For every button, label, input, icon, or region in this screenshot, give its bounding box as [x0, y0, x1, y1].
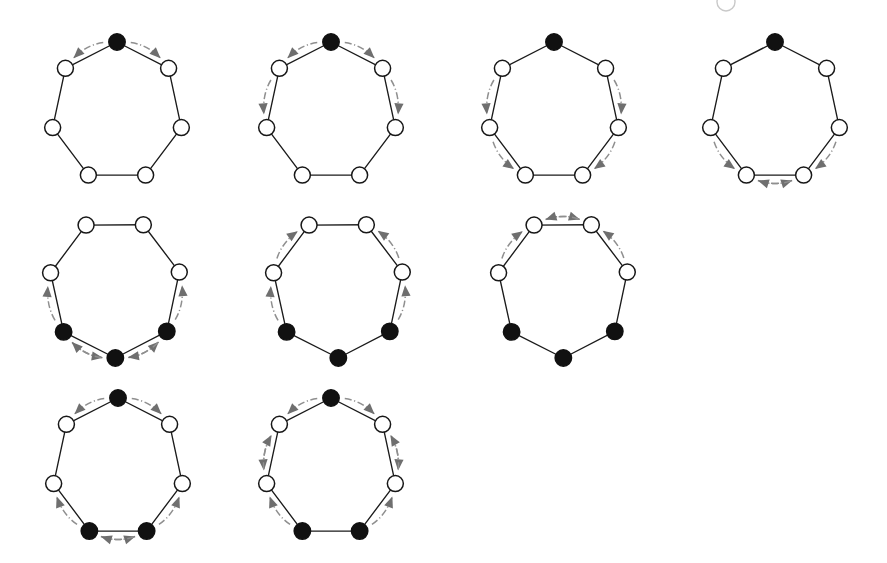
node-layer — [259, 390, 404, 539]
graph-node-open[interactable] — [161, 60, 177, 76]
graph-edge — [53, 68, 66, 127]
graph-panel-panel-5 — [15, 184, 215, 392]
graph-edge — [170, 424, 183, 483]
graph-edge — [499, 225, 534, 273]
graph-node-open[interactable] — [57, 60, 73, 76]
arc-layer — [265, 231, 410, 321]
graph-node-open[interactable] — [819, 60, 835, 76]
graph-node-open[interactable] — [352, 167, 368, 183]
graph-node-open[interactable] — [394, 264, 410, 280]
node-layer — [43, 217, 188, 366]
arc-layer — [481, 80, 626, 169]
graph-node-open[interactable] — [173, 120, 189, 136]
arrow-head-icon — [269, 497, 278, 509]
node-layer — [266, 217, 411, 366]
graph-node-open[interactable] — [491, 265, 507, 281]
graph-node-open[interactable] — [271, 416, 287, 432]
graph-node-open[interactable] — [610, 120, 626, 136]
node-layer — [46, 390, 191, 539]
graph-node-open[interactable] — [135, 217, 151, 233]
graph-node-filled[interactable] — [382, 323, 398, 339]
graph-node-filled[interactable] — [109, 34, 125, 50]
graph-edge — [390, 272, 402, 331]
graph-node-open[interactable] — [259, 120, 275, 136]
graph-node-filled[interactable] — [278, 324, 294, 340]
graph-node-open[interactable] — [517, 167, 533, 183]
graph-node-open[interactable] — [575, 167, 591, 183]
graph-edge — [51, 273, 64, 332]
arrow-head-icon — [594, 159, 606, 169]
graph-edge — [169, 68, 182, 127]
arrow-head-icon — [617, 103, 626, 114]
graph-node-open[interactable] — [80, 167, 96, 183]
graph-node-open[interactable] — [738, 167, 754, 183]
graph-node-open[interactable] — [45, 120, 61, 136]
graph-edge — [51, 225, 86, 273]
arrow-head-icon — [128, 351, 140, 360]
arrow-head-icon — [758, 179, 770, 188]
arrow-head-icon — [258, 103, 267, 114]
graph-node-open[interactable] — [619, 264, 635, 280]
graph-node-open[interactable] — [598, 60, 614, 76]
graph-node-filled[interactable] — [323, 34, 339, 50]
arc-layer — [258, 42, 403, 114]
graph-node-open[interactable] — [271, 60, 287, 76]
graph-node-filled[interactable] — [323, 390, 339, 406]
graph-node-open[interactable] — [494, 60, 510, 76]
graph-node-open[interactable] — [259, 476, 275, 492]
graph-node-open[interactable] — [301, 217, 317, 233]
graph-edge — [366, 225, 402, 272]
node-layer — [482, 34, 627, 183]
graph-edge — [591, 225, 627, 272]
graph-node-open[interactable] — [171, 264, 187, 280]
graph-node-open[interactable] — [43, 265, 59, 281]
graph-edge — [499, 273, 512, 332]
graph-edge — [804, 128, 840, 175]
graph-node-filled[interactable] — [351, 523, 367, 539]
graph-node-open[interactable] — [482, 120, 498, 136]
graph-node-open[interactable] — [387, 476, 403, 492]
graph-node-filled[interactable] — [503, 324, 519, 340]
graph-node-open[interactable] — [358, 217, 374, 233]
graph-node-filled[interactable] — [546, 34, 562, 50]
graph-node-filled[interactable] — [159, 323, 175, 339]
artifact-cut-off-node-top — [714, 0, 738, 14]
graph-node-open[interactable] — [387, 120, 403, 136]
arrow-head-icon — [73, 47, 84, 58]
graph-node-open[interactable] — [174, 476, 190, 492]
graph-node-filled[interactable] — [81, 523, 97, 539]
graph-node-filled[interactable] — [110, 390, 126, 406]
graph-node-filled[interactable] — [294, 523, 310, 539]
arrow-head-icon — [603, 231, 615, 241]
graph-node-open[interactable] — [266, 265, 282, 281]
arrow-head-icon — [265, 286, 274, 297]
graph-node-open[interactable] — [715, 60, 731, 76]
graph-node-open[interactable] — [375, 60, 391, 76]
arrow-head-icon — [723, 159, 735, 169]
arc-layer — [502, 212, 624, 259]
graph-node-open[interactable] — [162, 416, 178, 432]
graph-node-open[interactable] — [703, 120, 719, 136]
graph-node-filled[interactable] — [767, 34, 783, 50]
graph-node-open[interactable] — [78, 217, 94, 233]
arrow-head-icon — [287, 403, 298, 414]
graph-edge — [146, 128, 182, 175]
arrow-head-icon — [150, 403, 161, 414]
graph-node-open[interactable] — [831, 120, 847, 136]
graph-node-filled[interactable] — [55, 324, 71, 340]
graph-node-open[interactable] — [796, 167, 812, 183]
graph-node-open[interactable] — [58, 416, 74, 432]
graph-node-filled[interactable] — [138, 523, 154, 539]
graph-node-open[interactable] — [526, 217, 542, 233]
graph-node-open[interactable] — [138, 167, 154, 183]
graph-node-filled[interactable] — [607, 323, 623, 339]
graph-node-open[interactable] — [46, 476, 62, 492]
graph-node-filled[interactable] — [555, 350, 571, 366]
graph-panel-panel-8 — [18, 364, 218, 563]
edge-layer — [53, 42, 182, 175]
graph-node-open[interactable] — [583, 217, 599, 233]
graph-node-open[interactable] — [294, 167, 310, 183]
arrow-head-icon — [42, 286, 51, 297]
graph-node-open[interactable] — [375, 416, 391, 432]
arrow-head-icon — [171, 497, 180, 509]
